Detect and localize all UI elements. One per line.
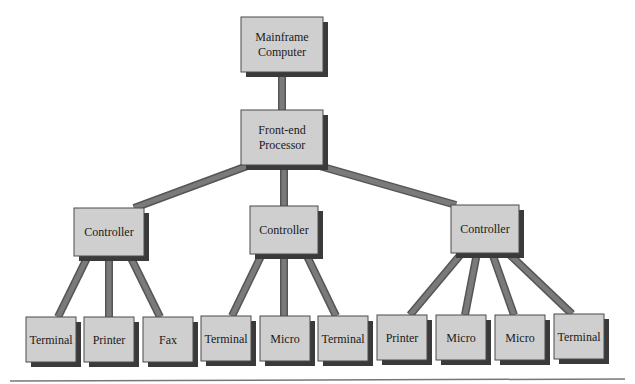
node-label: Front-end xyxy=(258,123,305,137)
page-baseline xyxy=(10,379,625,381)
node-p2: Printer xyxy=(377,315,432,365)
connector-ctrl2-t3 xyxy=(306,254,336,316)
connector-ctrl2-t2 xyxy=(232,254,262,316)
node-label: Micro xyxy=(446,331,475,345)
connector-ctrl3-t4 xyxy=(508,253,572,314)
node-t1: Terminal xyxy=(26,317,81,367)
node-label: Controller xyxy=(259,223,308,237)
node-label: Micro xyxy=(505,331,534,345)
node-m1: Micro xyxy=(260,316,315,366)
node-ctrl2: Controller xyxy=(250,206,323,259)
connector-ctrl1-t1 xyxy=(58,256,88,317)
connectors xyxy=(58,72,572,317)
node-label: Processor xyxy=(259,138,306,152)
node-m3: Micro xyxy=(495,315,550,365)
node-label: Printer xyxy=(386,331,419,345)
connector-fep-ctrl1 xyxy=(134,165,250,208)
node-t4: Terminal xyxy=(554,314,609,364)
connector-ctrl3-p2 xyxy=(410,253,462,315)
node-mainframe: MainframeComputer xyxy=(241,17,328,77)
node-label: Printer xyxy=(93,333,126,347)
node-label: Mainframe xyxy=(255,30,308,44)
node-f1: Fax xyxy=(143,317,198,367)
connector-ctrl3-m3 xyxy=(492,253,514,315)
node-t2: Terminal xyxy=(201,316,256,366)
node-label: Terminal xyxy=(29,333,73,347)
node-ctrl1: Controller xyxy=(74,208,149,261)
nodes: MainframeComputerFront-endProcessorContr… xyxy=(26,17,609,367)
node-label: Terminal xyxy=(321,332,365,346)
node-label: Fax xyxy=(159,333,177,347)
node-p1: Printer xyxy=(84,317,139,367)
node-label: Controller xyxy=(460,222,509,236)
connector-ctrl1-f1 xyxy=(130,256,160,317)
node-label: Computer xyxy=(258,45,306,59)
connector-ctrl3-m2 xyxy=(465,253,477,315)
node-label: Micro xyxy=(270,332,299,346)
node-label: Terminal xyxy=(557,330,601,344)
node-m2: Micro xyxy=(436,315,491,365)
network-hierarchy-diagram: MainframeComputerFront-endProcessorContr… xyxy=(0,0,635,384)
node-fep: Front-endProcessor xyxy=(241,110,328,170)
node-t3: Terminal xyxy=(318,316,373,366)
node-label: Terminal xyxy=(204,332,248,346)
node-label: Controller xyxy=(84,225,133,239)
connector-fep-ctrl3 xyxy=(316,165,456,205)
node-ctrl3: Controller xyxy=(451,205,524,258)
